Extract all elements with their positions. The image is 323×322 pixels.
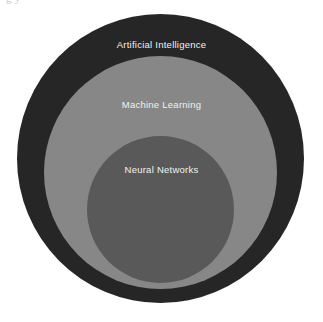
circle-neural-networks[interactable]	[87, 136, 234, 283]
diagram-canvas: g y Artificial Intelligence Machine Lear…	[0, 0, 323, 322]
label-machine-learning: Machine Learning	[0, 99, 323, 110]
label-neural-networks: Neural Networks	[0, 164, 323, 175]
label-artificial-intelligence: Artificial Intelligence	[0, 39, 323, 50]
clipped-header-text: g y	[6, 0, 21, 4]
